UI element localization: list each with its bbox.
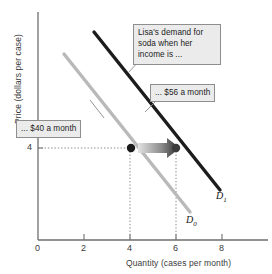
callout-income-40: ... $40 a month: [16, 120, 81, 138]
x-tick-label-2: 2: [81, 243, 86, 253]
callout-demand-description: Lisa's demand for soda when her income i…: [133, 24, 221, 65]
curve-label-d1-subscript: 1: [223, 196, 227, 204]
demand-curve-d0: [64, 54, 190, 212]
x-tick-label-8: 8: [219, 243, 224, 253]
x-axis-title: Quantity (cases per month): [126, 258, 231, 268]
x-tick-label-0: 0: [35, 243, 40, 253]
x-tick-label-6: 6: [173, 243, 178, 253]
demand-curve-figure: Price (dollars per case) Quantity (cases…: [0, 0, 272, 274]
callout-income-56: ... $56 a month: [150, 84, 215, 102]
y-tick-label-4: 4: [27, 142, 32, 152]
curve-label-d1: D1: [216, 190, 227, 204]
point-d1-equilibrium: [172, 144, 180, 152]
curve-label-d0-subscript: 0: [193, 220, 197, 228]
point-d0-equilibrium: [127, 144, 135, 152]
x-tick-label-4: 4: [127, 243, 132, 253]
curve-label-d0: D0: [186, 214, 197, 228]
